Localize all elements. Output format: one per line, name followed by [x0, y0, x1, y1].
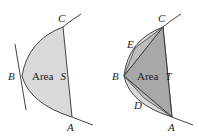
label-d-right: D	[133, 99, 142, 111]
label-a-left: A	[66, 121, 74, 133]
label-e-right: E	[126, 38, 134, 50]
left-diagram: C B A Area S	[8, 12, 93, 133]
parabola-diagrams: C B A Area S C E B D A Area T	[0, 0, 199, 136]
label-b-left: B	[8, 70, 15, 82]
right-diagram: C E B D A Area T	[112, 12, 193, 133]
label-c-right: C	[158, 12, 166, 24]
label-a-right: A	[167, 121, 175, 133]
label-c-left: C	[58, 12, 66, 24]
label-b-right: B	[112, 70, 119, 82]
